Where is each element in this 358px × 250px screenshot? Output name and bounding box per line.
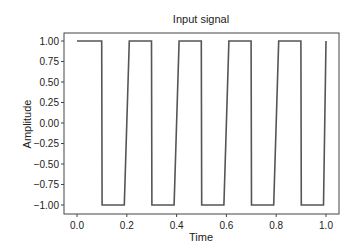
y-axis-ticks: 1.000.750.500.250.00−0.25−0.50−0.75−1.00 [34, 36, 64, 211]
chart-title: Input signal [173, 13, 229, 25]
y-tick-label: −1.00 [34, 200, 60, 211]
y-tick-label: −0.50 [34, 159, 60, 170]
y-axis-label: Amplitude [21, 100, 33, 149]
y-tick-label: 1.00 [40, 36, 60, 47]
x-tick-label: 0.0 [70, 220, 84, 231]
y-tick-label: −0.75 [34, 179, 60, 190]
y-tick-label: −0.25 [34, 138, 60, 149]
x-tick-label: 0.2 [120, 220, 134, 231]
y-tick-label: 0.25 [40, 97, 60, 108]
x-tick-label: 0.4 [170, 220, 184, 231]
x-tick-label: 0.8 [269, 220, 283, 231]
x-tick-label: 1.0 [319, 220, 333, 231]
x-axis-label: Time [189, 231, 213, 243]
square-wave-chart: Input signal 1.000.750.500.250.00−0.25−0… [0, 0, 358, 250]
x-tick-label: 0.6 [219, 220, 233, 231]
y-tick-label: 0.75 [40, 56, 60, 67]
y-tick-label: 0.00 [40, 118, 60, 129]
x-axis-ticks: 0.00.20.40.60.81.0 [70, 214, 333, 231]
signal-line [77, 41, 326, 205]
y-tick-label: 0.50 [40, 77, 60, 88]
